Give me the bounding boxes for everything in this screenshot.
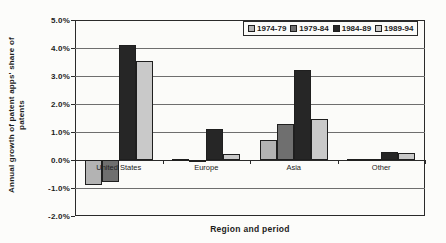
legend-marker-icon: [375, 25, 382, 32]
y-axis-tick-mark: [71, 48, 75, 49]
legend-label: 1989-94: [384, 24, 413, 33]
legend: 1974-791979-841984-891989-94: [243, 21, 418, 36]
bar-1989-94-asia: [311, 119, 328, 160]
y-axis-tick-label: 2.0%: [26, 100, 70, 109]
category-label: Europe: [163, 163, 251, 172]
category-label: Asia: [250, 163, 338, 172]
gridline: [75, 188, 425, 189]
bar-1979-84-asia: [277, 124, 294, 160]
category-axis-tick: [250, 160, 251, 164]
y-axis-tick-mark: [71, 132, 75, 133]
legend-item-1979-84: 1979-84: [290, 24, 328, 33]
legend-label: 1984-89: [342, 24, 371, 33]
legend-label: 1974-79: [257, 24, 286, 33]
y-axis-tick-label: 0.0%: [26, 156, 70, 165]
chart-figure: Annual growth of patent apps' share of p…: [0, 0, 446, 243]
bar-1984-89-asia: [294, 70, 311, 160]
bar-1984-89-europe: [206, 129, 223, 160]
legend-marker-icon: [248, 25, 255, 32]
y-axis-tick-mark: [71, 20, 75, 21]
legend-item-1984-89: 1984-89: [333, 24, 371, 33]
category-axis-tick: [163, 160, 164, 164]
y-axis-tick-mark: [71, 216, 75, 217]
y-axis-tick-mark: [71, 188, 75, 189]
bar-1974-79-other: [347, 159, 364, 161]
y-axis-tick-label: 3.0%: [26, 72, 70, 81]
category-axis-tick: [75, 160, 76, 164]
category-axis-tick: [425, 160, 426, 164]
bar-1984-89-other: [381, 152, 398, 160]
category-axis-tick: [338, 160, 339, 164]
legend-label: 1979-84: [299, 24, 328, 33]
bar-1989-94-other: [398, 153, 415, 160]
y-axis-tick-mark: [71, 76, 75, 77]
y-axis-title-line1: Annual growth of patent apps' share of: [7, 0, 17, 230]
bar-1974-79-europe: [172, 159, 189, 161]
y-axis-tick-label: -2.0%: [26, 212, 70, 221]
y-axis-tick-label: -1.0%: [26, 184, 70, 193]
y-axis-title-line2: patents: [17, 0, 27, 230]
legend-marker-icon: [290, 25, 297, 32]
y-axis-tick-label: 1.0%: [26, 128, 70, 137]
category-label: Other: [338, 163, 426, 172]
legend-marker-icon: [333, 25, 340, 32]
category-label: United States: [75, 163, 163, 172]
bar-1979-84-other: [364, 159, 381, 161]
bar-1989-94-europe: [223, 154, 240, 160]
x-axis-title: Region and period: [75, 224, 425, 234]
bar-1979-84-europe: [189, 160, 206, 162]
bar-1984-89-united-states: [119, 45, 136, 160]
y-axis-title: Annual growth of patent apps' share of p…: [7, 0, 29, 230]
legend-item-1989-94: 1989-94: [375, 24, 413, 33]
y-axis-tick-label: 5.0%: [26, 16, 70, 25]
y-axis-tick-label: 4.0%: [26, 44, 70, 53]
bar-1989-94-united-states: [136, 61, 153, 160]
bar-1974-79-asia: [260, 140, 277, 160]
legend-item-1974-79: 1974-79: [248, 24, 286, 33]
y-axis-tick-mark: [71, 104, 75, 105]
